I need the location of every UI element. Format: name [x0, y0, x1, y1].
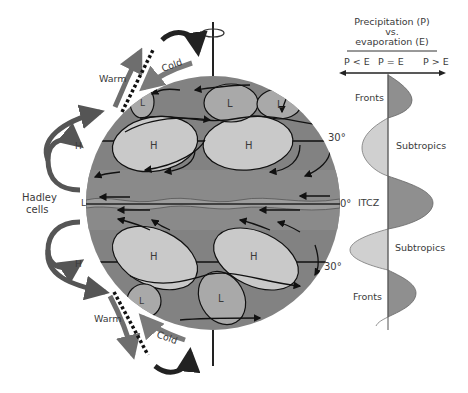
profile-lobe-fronts-south — [388, 270, 416, 317]
cyclone-arrow — [162, 33, 198, 52]
high-label-north-side: H — [75, 141, 82, 151]
zone-label-subtropics-south: Subtropics — [395, 242, 445, 253]
precip-evap-panel: Precipitation (P) vs. evaporation (E) P … — [339, 16, 449, 330]
latitude-label-north30: 30° — [328, 132, 346, 143]
low-label: L — [227, 98, 233, 109]
high-label: H — [245, 140, 253, 151]
hadley-label-line1: Hadley — [22, 192, 57, 203]
profile-lobe-subtropics-north — [362, 118, 388, 176]
zone-label-subtropics-north: Subtropics — [396, 140, 446, 151]
low-label: L — [139, 296, 144, 306]
profile-lobe-subtropics-south — [350, 229, 388, 270]
profile-lobe-fronts-north — [388, 75, 412, 118]
high-label: H — [150, 251, 158, 262]
axis-label-p-less-e: P < E — [344, 56, 370, 67]
zone-label-fronts-south: Fronts — [353, 291, 382, 302]
arrow-right-icon — [439, 70, 446, 76]
zone-label-fronts-north: Fronts — [355, 92, 384, 103]
low-label: L — [140, 98, 145, 108]
high-label-south-side: H — [75, 259, 82, 269]
latitude-label-south30: 30° — [324, 261, 342, 272]
latitude-label-equator: 0° — [340, 198, 351, 209]
hadley-label-line2: cells — [26, 204, 48, 215]
low-label: L — [277, 99, 283, 110]
zone-label-itcz: ITCZ — [358, 197, 380, 208]
high-label: H — [250, 251, 258, 262]
cold-label: Cold — [155, 329, 179, 347]
circulation-diagram: H H L L L H H L L 30° 0° 30° H L H Hadle… — [0, 0, 468, 393]
profile-lobe-itcz — [388, 176, 433, 229]
globe: H H L L L H H L L — [86, 76, 346, 333]
warm-label: Warm — [94, 313, 122, 324]
warm-label: Warm — [99, 73, 127, 84]
cyclone-arrow — [155, 352, 190, 372]
high-label: H — [150, 140, 158, 151]
arrow-left-icon — [339, 70, 346, 76]
axis-label-p-greater-e: P > E — [423, 56, 449, 67]
warm-air-arrow — [110, 296, 133, 355]
low-label: L — [218, 293, 224, 304]
panel-title-line3: evaporation (E) — [355, 36, 429, 47]
axis-label-p-equals-e: P = E — [378, 56, 404, 67]
low-label-equator-side: L — [81, 198, 86, 208]
